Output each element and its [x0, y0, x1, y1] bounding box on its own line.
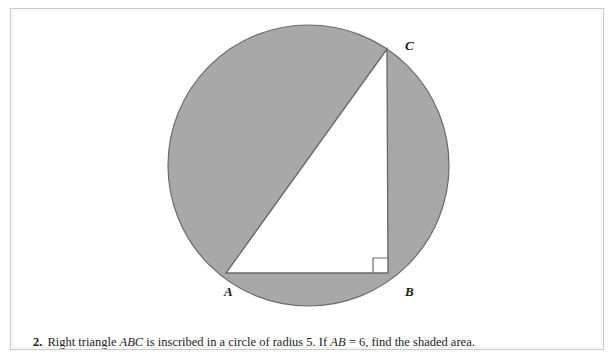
vertex-label-a: A — [224, 285, 233, 298]
problem-text-part-3: = 6, find the shaded area. — [346, 335, 475, 349]
problem-statement: 2.Right triangle ABC is inscribed in a c… — [33, 334, 593, 350]
page-frame: A B C 2.Right triangle ABC is inscribed … — [10, 8, 604, 350]
geometry-figure: A B C — [11, 9, 605, 314]
variable-abc: ABC — [120, 335, 144, 349]
vertex-label-c: C — [405, 39, 414, 52]
problem-text-part-1: Right triangle — [47, 335, 119, 349]
vertex-label-b: B — [405, 285, 414, 298]
circle-triangle-diagram — [11, 9, 605, 314]
variable-ab: AB — [330, 335, 345, 349]
page-canvas: A B C 2.Right triangle ABC is inscribed … — [0, 0, 613, 358]
problem-text-part-2: is inscribed in a circle of radius 5. If — [143, 335, 330, 349]
problem-number: 2. — [33, 335, 42, 349]
